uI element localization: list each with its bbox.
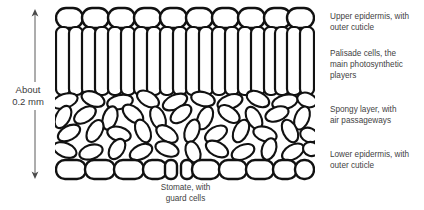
label-palisade: Palisade cells, the main photosynthetic … xyxy=(330,48,424,82)
label-lower-epidermis-line2: outer cuticle xyxy=(330,160,424,171)
scale-bar: About 0.2 mm xyxy=(0,0,55,190)
label-lower-epidermis-line1: Lower epidermis, with xyxy=(330,149,424,160)
scale-caption-line1: About xyxy=(0,84,56,96)
label-upper-epidermis: Upper epidermis, with outer cuticle xyxy=(330,11,424,33)
stomate-guard-cells xyxy=(165,160,193,179)
label-upper-epidermis-line1: Upper epidermis, with xyxy=(330,11,424,22)
label-spongy-line2: air passageways xyxy=(330,115,424,126)
label-palisade-line2: main photosynthetic xyxy=(330,59,424,70)
leaf-cross-section-diagram xyxy=(55,5,315,185)
label-upper-epidermis-line2: outer cuticle xyxy=(330,22,424,33)
label-column: Upper epidermis, with outer cuticle Pali… xyxy=(330,0,424,210)
stomate-caption: Stomate, with guard cells xyxy=(118,182,253,204)
spongy-layer xyxy=(55,87,315,165)
label-spongy: Spongy layer, with air passageways xyxy=(330,104,424,126)
label-spongy-line1: Spongy layer, with xyxy=(330,104,424,115)
palisade-layer xyxy=(56,27,314,95)
label-lower-epidermis: Lower epidermis, with outer cuticle xyxy=(330,149,424,171)
label-palisade-line3: players xyxy=(330,70,424,81)
stomate-caption-line2: guard cells xyxy=(118,193,253,204)
stomate-caption-line1: Stomate, with xyxy=(118,182,253,193)
label-palisade-line1: Palisade cells, the xyxy=(330,48,424,59)
scale-caption-line2: 0.2 mm xyxy=(0,96,56,108)
figure-canvas: About 0.2 mm xyxy=(0,0,424,210)
scale-caption: About 0.2 mm xyxy=(0,82,56,110)
lower-epidermis-layer xyxy=(56,160,314,179)
upper-epidermis-layer xyxy=(56,8,314,28)
